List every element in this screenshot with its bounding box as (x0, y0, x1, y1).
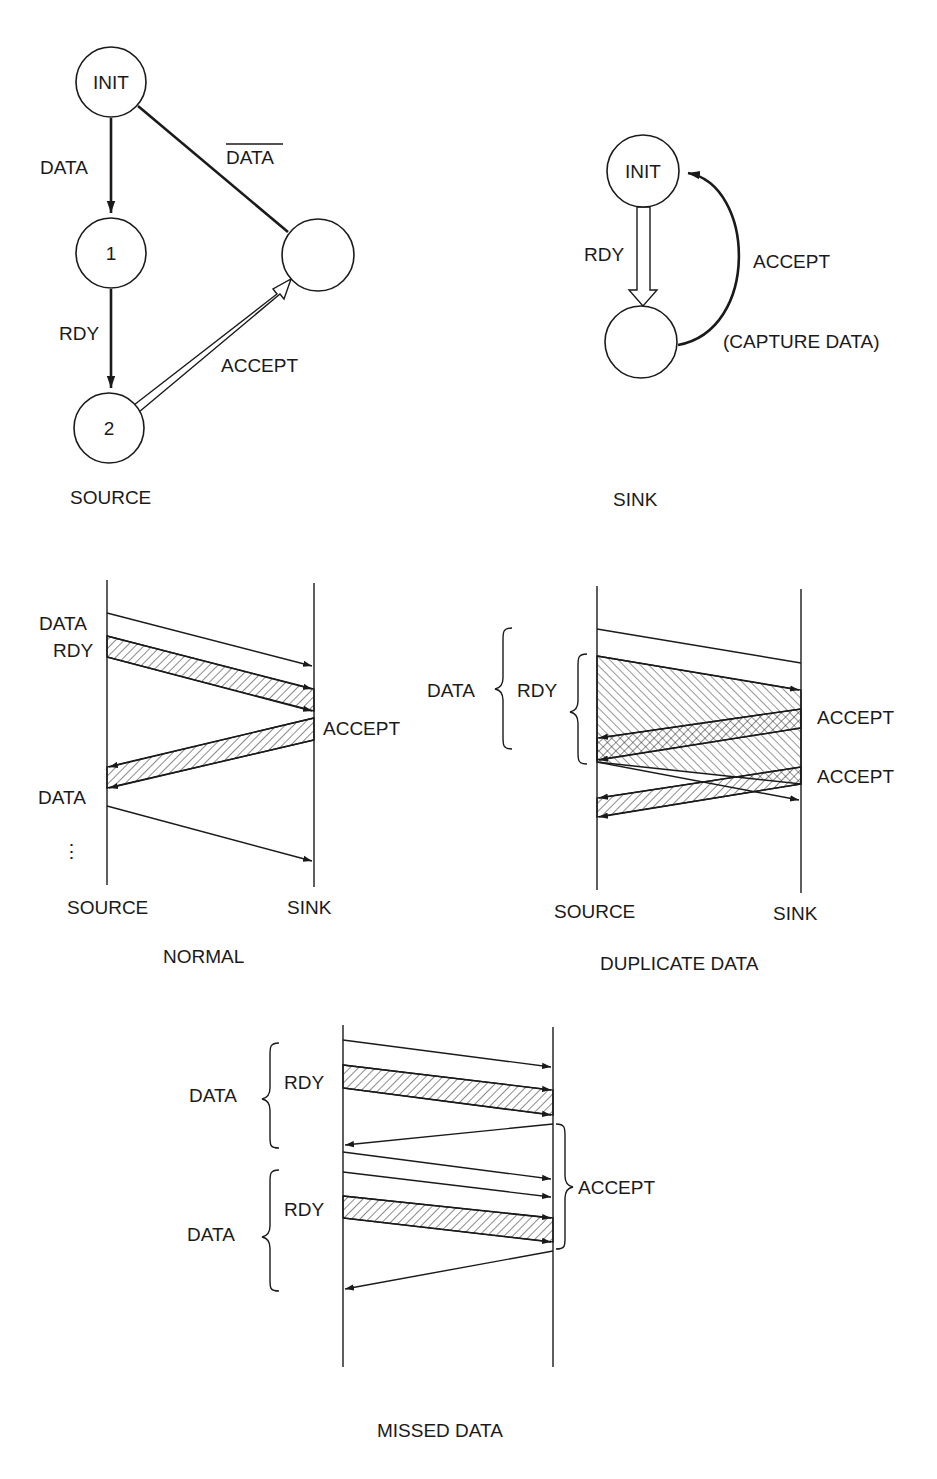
data-arrow-2 (107, 806, 312, 861)
accept-arrow-1 (345, 1124, 553, 1145)
sink-edge-label-rdy: RDY (584, 244, 624, 265)
data-arrow-3 (343, 1172, 551, 1197)
normal-caption: NORMAL (163, 946, 244, 967)
accept-band-2 (597, 767, 801, 817)
label-data-1: DATA (189, 1085, 237, 1106)
ellipsis: ⋮ (62, 841, 81, 862)
edge-init-to-unnamed (138, 106, 288, 232)
label-rdy: RDY (517, 680, 557, 701)
label-accept-1: ACCEPT (817, 707, 894, 728)
data-brace-2 (262, 1170, 279, 1291)
source-edge-label-data-bar: DATA (226, 147, 274, 168)
data-brace (495, 628, 512, 749)
accept-band (107, 718, 314, 788)
edge-init-to-unnamed-hollow-arrow (629, 207, 657, 306)
accept-brace (556, 1124, 573, 1249)
duplicate-timing-diagram: DATA RDY ACCEPT ACCEPT SOURCE SINK DUPLI… (427, 586, 894, 974)
missed-timing-diagram: DATA RDY DATA RDY ACCEPT MISSED DATA (187, 1025, 655, 1441)
data-arrow-2 (343, 1152, 551, 1179)
edge-2-to-unnamed-hollow-arrow (134, 279, 291, 412)
normal-timing-diagram: DATA RDY ACCEPT DATA ⋮ SOURCE SINK NORMA… (38, 580, 400, 967)
source-edge-label-rdy: RDY (59, 323, 99, 344)
sink-state-machine: INIT RDY ACCEPT (CAPTURE DATA) SINK (584, 135, 880, 510)
handshake-diagram: INIT 1 2 DATA DATA RDY ACCEPT SOURCE INI… (0, 0, 937, 1479)
source-node-2-label: 2 (104, 418, 115, 439)
source-edge-label-data: DATA (40, 157, 88, 178)
label-rdy-2: RDY (284, 1199, 324, 1220)
source-caption: SOURCE (70, 487, 151, 508)
sink-label: SINK (287, 897, 332, 918)
data-arrow-1 (343, 1040, 551, 1067)
source-label: SOURCE (67, 897, 148, 918)
rdy-band-2 (343, 1196, 553, 1242)
sink-node-init-label: INIT (625, 161, 661, 182)
sink-node-unnamed (605, 306, 677, 378)
rdy-band (107, 636, 314, 711)
rdy-brace (570, 654, 587, 764)
sink-label: SINK (773, 903, 818, 924)
source-label: SOURCE (554, 901, 635, 922)
source-node-1-label: 1 (106, 243, 117, 264)
duplicate-caption: DUPLICATE DATA (600, 953, 759, 974)
edge-unnamed-to-init (678, 173, 739, 345)
label-rdy: RDY (53, 640, 93, 661)
label-data-2: DATA (187, 1224, 235, 1245)
missed-caption: MISSED DATA (377, 1420, 503, 1441)
label-data-2: DATA (38, 787, 86, 808)
label-accept: ACCEPT (578, 1177, 655, 1198)
label-rdy-1: RDY (284, 1072, 324, 1093)
sink-edge-label-accept: ACCEPT (753, 251, 830, 272)
source-state-machine: INIT 1 2 DATA DATA RDY ACCEPT SOURCE (40, 47, 354, 508)
rdy-band-1 (343, 1065, 553, 1115)
label-accept: ACCEPT (323, 718, 400, 739)
label-accept-2: ACCEPT (817, 766, 894, 787)
sink-edge-label-capture: (CAPTURE DATA) (723, 331, 880, 352)
label-data: DATA (427, 680, 475, 701)
source-node-unnamed (282, 219, 354, 291)
sink-caption: SINK (613, 489, 658, 510)
accept-arrow-2 (345, 1251, 553, 1289)
source-edge-label-accept: ACCEPT (221, 355, 298, 376)
data-brace-1 (262, 1043, 279, 1148)
label-data: DATA (39, 613, 87, 634)
source-node-init-label: INIT (93, 72, 129, 93)
data-line (597, 629, 801, 663)
